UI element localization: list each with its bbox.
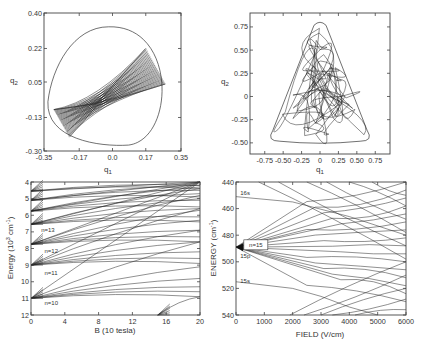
ticks-a: -0.35-0.170.00.170.35-0.30-0.130.050.220… [26,9,188,163]
y-tick-label: 12 [21,311,29,320]
y-tick-label: 0 [244,92,248,101]
y-tick-label: 540 [222,311,234,320]
stark-level [236,282,378,315]
equipotential-boundary [271,22,370,143]
x-tick-label: 0 [234,317,238,326]
ticks-b: -0.75-0.50-0.2500.250.500.75-0.50-0.2500… [232,13,390,165]
x-tick-label: 3000 [313,317,329,326]
y-tick-label: -0.25 [232,115,248,124]
plot-area-b [271,22,370,144]
y-tick-label: 480 [222,231,234,240]
y-tick-label: 460 [222,204,234,213]
x-tick-label: -0.17 [71,153,87,162]
x-axis-label-a: q1 [104,165,112,175]
y-tick-label: 0.75 [234,22,248,31]
x-tick-label: 20 [196,317,204,326]
energy-level [31,182,200,224]
state-label: 16s [240,190,250,196]
y-tick-label: 9 [25,261,29,270]
x-tick-label: -0.50 [275,156,291,165]
y-axis-label-d: ENERGY (cm-1) [208,219,218,276]
state-label: 15s [240,278,250,284]
level-label: n=10 [45,300,59,306]
y-tick-label: 520 [222,284,234,293]
x-axis-label-b: q1 [316,165,324,175]
y-tick-label: 10 [21,277,29,286]
y-tick-label: 5 [25,194,29,203]
panel-chaotic-trajectory: -0.75-0.50-0.2500.250.500.75-0.50-0.2500… [221,13,390,175]
y-tick-label: -0.30 [26,147,42,156]
x-tick-label: 0 [29,317,33,326]
axes-frame-b [250,13,390,154]
stark-level [236,247,406,286]
y-tick-label: 0.40 [28,9,42,18]
x-tick-label: 0.17 [139,153,153,162]
panel-regular-trajectory: -0.35-0.170.00.170.35-0.30-0.130.050.220… [10,9,188,176]
y-tick-label: 11 [22,294,29,303]
stark-level [236,197,406,236]
annotations-d: n=1516s15p15s [240,190,268,284]
x-tick-label: 6000 [398,317,414,326]
trajectory-envelope [54,48,166,137]
x-tick-label: 8 [97,317,101,326]
energy-level [158,311,170,315]
stark-level [304,275,406,315]
energy-level [158,297,200,315]
chaotic-trajectory [274,28,366,144]
x-tick-label: 0.50 [350,156,364,165]
y-axis-label-b: q2 [221,77,229,87]
stark-level [236,247,406,278]
trajectory [54,48,166,136]
stark-level [372,182,406,195]
x-tick-label: 1000 [256,317,272,326]
energy-level [31,187,200,211]
x-tick-label: -0.75 [257,156,273,165]
x-tick-label: 5000 [370,317,386,326]
level-label: n=13 [41,227,55,233]
level-label: n=12 [45,248,59,254]
stark-level [290,262,406,315]
energy-level [31,190,200,200]
y-tick-label: 0.22 [28,44,42,53]
x-tick-label: 12 [128,317,136,326]
x-axis-label-c: B (10 tesla) [95,326,136,335]
x-tick-label: 0.75 [368,156,382,165]
x-tick-label: 0.35 [174,153,188,162]
y-tick-label: -0.50 [232,138,248,147]
panel-electric-field-spectrum: 0100020003000400050006000440460480500520… [208,178,414,340]
y-tick-label: 500 [222,257,234,266]
level-label: n=11 [45,270,59,276]
x-axis-label-d: FIELD (V/cm) [296,330,345,339]
figure: -0.35-0.170.00.170.35-0.30-0.130.050.220… [0,0,422,347]
plot-area-a [48,27,165,146]
y-tick-label: 0.50 [234,46,248,55]
y-tick-label: -0.13 [26,113,42,122]
y-tick-label: 0.05 [28,78,42,87]
fan-origin [236,243,243,251]
x-tick-label: -0.25 [293,156,309,165]
x-tick-label: 4000 [341,317,357,326]
x-tick-label: 16 [162,317,170,326]
y-axis-label-c: Energy (103 cm-1) [5,216,15,279]
y-tick-label: 6 [25,211,29,220]
y-tick-label: 0.25 [234,69,248,78]
x-tick-label: 0.0 [108,153,118,162]
manifold-label: n=15 [249,242,263,248]
y-tick-label: 7 [25,227,29,236]
state-label: 15p [240,253,251,259]
panel-magnetic-field-spectrum: 048121620456789101112 n=13n=12n=11n=10 B… [5,178,204,336]
y-tick-label: 4 [25,178,29,187]
x-tick-label: 4 [63,317,67,326]
y-tick-label: 440 [222,178,234,187]
x-tick-label: 0 [318,156,322,165]
y-tick-label: 8 [25,244,29,253]
stark-level [279,182,407,246]
x-tick-label: 2000 [285,317,301,326]
y-axis-label-a: q2 [10,76,18,86]
x-tick-label: 0.25 [331,156,345,165]
